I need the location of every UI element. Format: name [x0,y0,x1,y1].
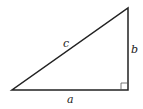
label-c: c [63,37,69,50]
triangle [12,8,128,90]
right-angle-marker [121,83,128,90]
label-a: a [67,93,74,106]
right-triangle-diagram: c b a [0,0,143,109]
label-b: b [131,43,138,56]
